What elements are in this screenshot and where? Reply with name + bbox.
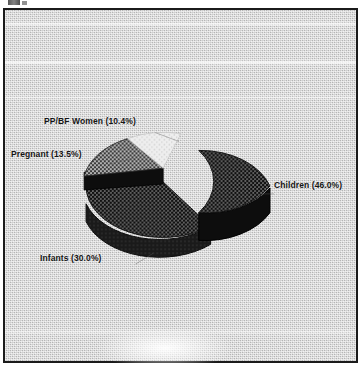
scan-artifact-speck-secondary bbox=[22, 1, 27, 5]
scan-artifact-speck bbox=[8, 0, 20, 5]
slice-label-children: Children (46.0%) bbox=[274, 180, 342, 190]
figure-page: PP/BF Women (10.4%) Pregnant (13.5%) Inf… bbox=[0, 0, 362, 375]
slice-label-ppbf-women: PP/BF Women (10.4%) bbox=[44, 116, 136, 126]
slice-label-infants: Infants (30.0%) bbox=[40, 253, 102, 263]
slice-label-pregnant: Pregnant (13.5%) bbox=[11, 149, 82, 159]
